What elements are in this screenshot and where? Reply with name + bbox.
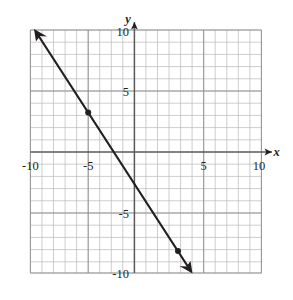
x-tick-label-minus5: -5	[83, 159, 93, 173]
data-point	[85, 110, 91, 116]
y-tick-label-10: 10	[117, 25, 130, 39]
data-point	[175, 248, 181, 254]
x-tick-label-5: 5	[201, 159, 207, 173]
x-axis-label: x	[272, 145, 279, 159]
y-tick-label-minus5: -5	[119, 207, 129, 221]
x-tick-label-minus10: -10	[22, 159, 39, 173]
y-tick-label-minus10: -10	[112, 267, 129, 281]
y-axis-label: y	[123, 12, 131, 26]
y-tick-label-5: 5	[123, 85, 129, 99]
coordinate-plane-graph: -10 -5 5 10 10 5 -5 -10 x y	[0, 0, 293, 300]
x-tick-label-10: 10	[253, 159, 266, 173]
graph-svg: -10 -5 5 10 10 5 -5 -10 x y	[0, 0, 293, 300]
